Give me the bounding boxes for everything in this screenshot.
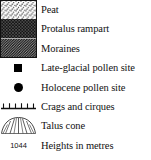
legend-symbol-talus-cone	[0, 116, 37, 135]
legend-symbol-moraines	[0, 39, 37, 58]
hachured-line-icon	[0, 97, 37, 116]
legend-row-protalus-rampart: Protalus rampart	[0, 19, 151, 38]
legend-label-heights-in-metres: Heights in metres	[41, 136, 113, 155]
legend-label-holocene-pollen-site: Holocene pollen site	[41, 78, 125, 97]
legend-label-protalus-rampart: Protalus rampart	[41, 19, 109, 38]
legend-row-moraines: Moraines	[0, 39, 151, 58]
legend-symbol-protalus-rampart	[0, 19, 37, 38]
legend-label-peat: Peat	[41, 0, 59, 19]
legend-row-talus-cone: Talus cone	[0, 116, 151, 135]
crosshatch-swatch	[0, 19, 37, 38]
legend-symbol-late-glacial-pollen-site	[0, 58, 37, 77]
legend-symbol-crags-and-cirques	[0, 97, 37, 116]
legend-row-late-glacial-pollen-site: Late-glacial pollen site	[0, 58, 151, 77]
legend-label-late-glacial-pollen-site: Late-glacial pollen site	[41, 58, 135, 77]
legend-symbol-peat	[0, 0, 37, 19]
spot-height-number: 1044	[0, 136, 37, 155]
legend-row-peat: Peat	[0, 0, 151, 19]
diagonal-hatch-pattern-icon	[0, 39, 37, 58]
legend-label-crags-and-cirques: Crags and cirques	[41, 97, 115, 116]
legend-symbol-heights-in-metres: 1044	[0, 136, 37, 155]
legend-symbol-holocene-pollen-site	[0, 78, 37, 97]
crosshatch-pattern-icon	[0, 19, 37, 38]
talus-cone-icon	[0, 115, 37, 137]
legend-row-holocene-pollen-site: Holocene pollen site	[0, 78, 151, 97]
legend-row-heights-in-metres: 1044 Heights in metres	[0, 136, 151, 155]
map-legend: Peat Protalus rampart	[0, 0, 151, 160]
filled-circle-marker-icon	[14, 83, 23, 92]
legend-label-talus-cone: Talus cone	[41, 116, 85, 135]
stipple-swatch	[0, 0, 37, 19]
legend-label-moraines: Moraines	[41, 39, 80, 58]
legend-row-crags-and-cirques: Crags and cirques	[0, 97, 151, 116]
stipple-pattern-icon	[0, 0, 37, 19]
filled-square-marker-icon	[14, 64, 22, 72]
diagonal-hatch-swatch	[0, 39, 37, 58]
